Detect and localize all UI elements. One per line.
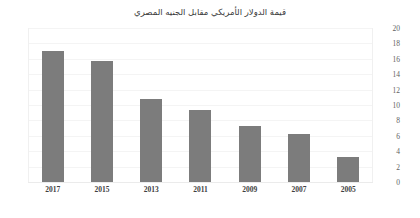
bar-2017[interactable] <box>42 51 64 182</box>
x-tick-label-2015: 2015 <box>77 185 126 194</box>
y-tick-label: 14 <box>378 70 400 79</box>
x-tick-label-2007: 2007 <box>274 185 323 194</box>
bar-2011[interactable] <box>189 110 211 182</box>
x-tick-label-2017: 2017 <box>28 185 77 194</box>
y-tick-label: 2 <box>378 162 400 171</box>
axis-baseline <box>28 182 373 183</box>
bar-slot <box>274 28 323 182</box>
x-tick-label-2009: 2009 <box>225 185 274 194</box>
bar-slot <box>28 28 77 182</box>
bar-slot <box>324 28 373 182</box>
y-tick-label: 10 <box>378 101 400 110</box>
bar-2015[interactable] <box>91 61 113 182</box>
x-tick-label-2005: 2005 <box>324 185 373 194</box>
y-tick-label: 16 <box>378 54 400 63</box>
bar-slot <box>225 28 274 182</box>
bar-slot <box>176 28 225 182</box>
y-tick-label: 8 <box>378 116 400 125</box>
x-tick-label-2013: 2013 <box>127 185 176 194</box>
bar-2009[interactable] <box>239 126 261 182</box>
y-tick-label: 4 <box>378 147 400 156</box>
bar-slot <box>127 28 176 182</box>
y-tick-label: 20 <box>378 24 400 33</box>
y-axis: 20 18 16 14 12 10 8 6 4 2 0 <box>378 28 418 183</box>
bars-layer <box>28 28 373 182</box>
bar-2005[interactable] <box>337 157 359 182</box>
bar-2013[interactable] <box>140 99 162 182</box>
y-tick-label: 6 <box>378 131 400 140</box>
chart-title: قيمة الدولار الأمريكي مقابل الجنيه المصر… <box>0 7 420 17</box>
bar-2007[interactable] <box>288 134 310 183</box>
chart-container: قيمة الدولار الأمريكي مقابل الجنيه المصر… <box>0 0 420 218</box>
x-axis: 2017 2015 2013 2011 2009 2007 2005 <box>28 185 373 201</box>
x-tick-label-2011: 2011 <box>176 185 225 194</box>
y-tick-label: 18 <box>378 39 400 48</box>
y-tick-label: 0 <box>378 178 400 187</box>
bar-slot <box>77 28 126 182</box>
y-tick-label: 12 <box>378 85 400 94</box>
